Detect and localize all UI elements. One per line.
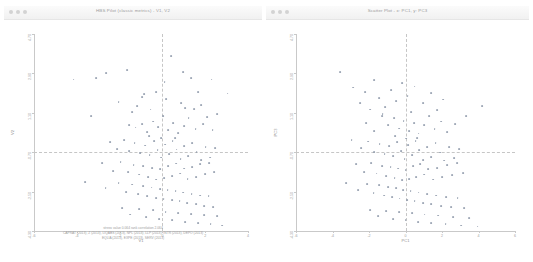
- data-point: [401, 82, 403, 84]
- data-point: [406, 199, 408, 201]
- data-point: [138, 208, 140, 210]
- footer-annotation-line3: EQLIA (2013), EXPE (2013), SERV (2013): [4, 236, 262, 241]
- data-point: [131, 111, 133, 113]
- data-point: [369, 109, 371, 111]
- data-point: [339, 71, 341, 73]
- data-point: [374, 130, 376, 132]
- data-point: [152, 209, 154, 211]
- data-point: [165, 211, 167, 213]
- data-point: [434, 128, 436, 130]
- data-point: [403, 120, 405, 122]
- data-point: [406, 138, 408, 140]
- data-point: [183, 145, 185, 147]
- data-point: [410, 190, 412, 192]
- y-axis-tick: [294, 34, 296, 35]
- data-point: [157, 126, 159, 128]
- data-point: [416, 137, 418, 139]
- data-point: [452, 216, 454, 218]
- data-point: [171, 220, 173, 222]
- y-axis-tick-label: -0.70: [28, 152, 32, 162]
- data-point: [457, 197, 459, 199]
- data-point: [200, 159, 202, 161]
- data-point: [172, 122, 174, 124]
- data-point: [212, 206, 214, 208]
- scatter-plot-right[interactable]: -4.30-2.50-0.701.102.904.70-6-4-20246PC3…: [266, 20, 529, 257]
- data-point: [364, 171, 366, 173]
- y-axis-label: PC3: [273, 128, 278, 136]
- data-point: [453, 157, 455, 159]
- data-point: [216, 113, 218, 115]
- data-point: [365, 122, 367, 124]
- data-point: [157, 150, 159, 152]
- data-point: [167, 189, 169, 191]
- data-point: [180, 102, 182, 104]
- data-point: [373, 192, 375, 194]
- data-point: [407, 144, 409, 146]
- data-point: [175, 190, 177, 192]
- data-point: [90, 115, 92, 117]
- data-point: [407, 95, 409, 97]
- screenshot-root: HBS Pilot (classic metrics) - V1, V2 -4.…: [0, 0, 533, 262]
- data-point: [445, 196, 447, 198]
- data-point: [418, 192, 420, 194]
- data-point: [454, 123, 456, 125]
- data-point: [445, 224, 447, 226]
- x-axis-tick-label: 0: [405, 234, 407, 238]
- data-point: [175, 163, 177, 165]
- data-point: [391, 196, 393, 198]
- data-point: [135, 127, 137, 129]
- y-axis-tick: [294, 73, 296, 74]
- data-point: [367, 141, 369, 143]
- data-point: [142, 166, 144, 168]
- data-point: [127, 171, 129, 173]
- data-point: [211, 79, 213, 81]
- data-point: [186, 202, 188, 204]
- data-point: [171, 175, 173, 177]
- data-point: [197, 91, 199, 93]
- data-point: [191, 193, 193, 195]
- data-point: [414, 86, 416, 88]
- data-point: [105, 187, 107, 189]
- data-point: [385, 106, 387, 108]
- data-point: [364, 91, 366, 93]
- data-point: [440, 121, 442, 123]
- data-point: [195, 128, 197, 130]
- data-point: [441, 176, 443, 178]
- data-point: [448, 146, 450, 148]
- data-point: [395, 135, 397, 137]
- x-axis-tick-label: 4: [478, 234, 480, 238]
- data-point: [84, 181, 86, 183]
- y-axis-line: [34, 34, 35, 231]
- data-point: [405, 220, 407, 222]
- data-point: [144, 145, 146, 147]
- data-point: [199, 195, 201, 197]
- y-axis-tick-label: 1.10: [290, 113, 294, 123]
- data-point: [165, 98, 167, 100]
- data-point: [379, 143, 381, 145]
- data-point: [400, 150, 402, 152]
- y-axis-tick-label: -4.30: [290, 231, 294, 241]
- data-point: [102, 162, 104, 164]
- data-point: [151, 167, 153, 169]
- y-axis-tick: [294, 192, 296, 193]
- data-point: [212, 129, 214, 131]
- data-point: [431, 203, 433, 205]
- data-point: [153, 140, 155, 142]
- titlebar-right[interactable]: Scatter Plot - x: PC1, y: PC3: [266, 6, 529, 20]
- data-point: [168, 153, 170, 155]
- data-point: [404, 158, 406, 160]
- data-point: [369, 209, 371, 211]
- titlebar-left[interactable]: HBS Pilot (classic metrics) - V1, V2: [4, 6, 262, 20]
- data-point: [190, 77, 192, 79]
- x-axis-tick-label: 2: [441, 234, 443, 238]
- data-point: [184, 221, 186, 223]
- data-point: [180, 158, 182, 160]
- data-point: [412, 166, 414, 168]
- data-point: [141, 97, 143, 99]
- scatter-plot-left[interactable]: -4.30-2.50-0.701.102.904.70-6-4-2024V2V1…: [4, 20, 262, 257]
- data-point: [387, 125, 389, 127]
- data-point: [147, 176, 149, 178]
- x-axis-tick-label: 6: [514, 234, 516, 238]
- data-point: [414, 201, 416, 203]
- data-point: [137, 193, 139, 195]
